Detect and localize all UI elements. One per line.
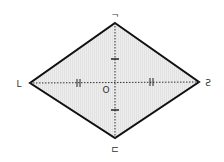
- center-label: O: [102, 85, 109, 95]
- vertex-label-top: ¬: [111, 10, 119, 20]
- rhombus-diagram: ¬ L Ƨ ⊏ O: [0, 0, 224, 162]
- vertex-label-bottom: ⊏: [111, 144, 119, 154]
- vertex-label-right: Ƨ: [205, 78, 211, 88]
- vertex-label-left: L: [16, 79, 21, 89]
